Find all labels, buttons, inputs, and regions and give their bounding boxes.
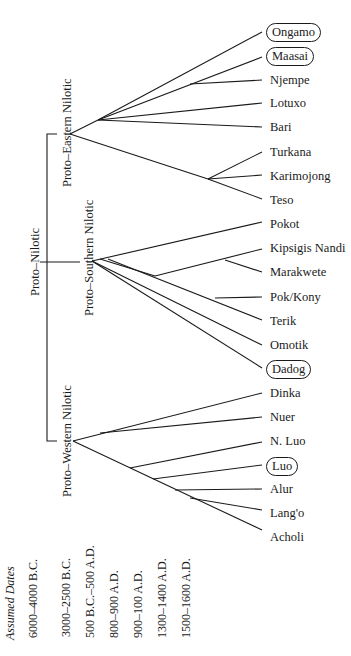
- date-3000-2500bc: 3000–2500 B.C.: [59, 558, 74, 637]
- date-500bc-500ad: 500 B.C.–500 A.D.: [83, 545, 98, 638]
- leaf-njempe: Njempe: [270, 73, 310, 87]
- date-900-100ad: 900–100 A.D.: [131, 570, 146, 638]
- leaf-bari: Bari: [270, 120, 292, 134]
- leaf-pokot: Pokot: [270, 217, 299, 231]
- leaf-pok-kony: Pok/Kony: [270, 290, 321, 304]
- date-1300-1400ad: 1300–1400 A.D.: [155, 558, 170, 638]
- southern-branches: [92, 222, 262, 368]
- leaf-karimojong: Karimojong: [270, 169, 330, 183]
- date-800-900ad: 800–900 A.D.: [107, 570, 122, 638]
- leaf-luo: Luo: [266, 457, 298, 476]
- leaf-kipsigis-nandi: Kipsigis Nandi: [270, 241, 345, 255]
- leaf-dadog: Dadog: [266, 360, 311, 379]
- proto-southern-label: Proto–Southern Nilotic: [82, 200, 97, 316]
- western-branches: [73, 393, 262, 530]
- leaf-turkana: Turkana: [270, 145, 311, 159]
- date-6000-4000bc: 6000–4000 B.C.: [26, 559, 41, 638]
- leaf-alur: Alur: [270, 482, 293, 496]
- proto-western-label: Proto–Western Nilotic: [60, 385, 75, 497]
- leaf-dinka: Dinka: [270, 386, 301, 400]
- leaf-ongamo: Ongamo: [266, 23, 321, 42]
- eastern-branches: [70, 32, 262, 199]
- leaf-lango: Lang'o: [270, 506, 304, 520]
- leaf-nuer: Nuer: [270, 410, 295, 424]
- leaf-omotik: Omotik: [270, 338, 308, 352]
- proto-eastern-label: Proto–Eastern Nilotic: [60, 78, 75, 187]
- date-1500-1600ad: 1500–1600 A.D.: [179, 558, 194, 638]
- leaf-marakwete: Marakwete: [270, 265, 326, 279]
- leaf-lotuxo: Lotuxo: [270, 96, 306, 110]
- leaf-maasai: Maasai: [266, 47, 314, 66]
- leaf-n-luo: N. Luo: [270, 434, 305, 448]
- leaf-acholi: Acholi: [270, 530, 304, 544]
- dates-header: Assumed Dates: [3, 566, 18, 640]
- leaf-terik: Terik: [270, 314, 296, 328]
- proto-nilotic-label: Proto–Nilotic: [28, 228, 43, 296]
- leaf-teso: Teso: [270, 193, 293, 207]
